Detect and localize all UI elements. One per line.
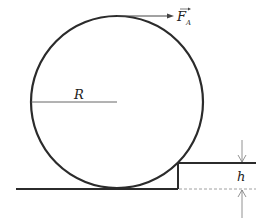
vector-arrow-icon	[188, 8, 191, 11]
force-subscript: A	[185, 19, 191, 27]
radius-label: R	[73, 87, 84, 102]
height-label: h	[237, 169, 245, 184]
force-arrowhead-icon	[167, 14, 174, 19]
wheel-step-diagram: R F A h	[0, 0, 267, 223]
